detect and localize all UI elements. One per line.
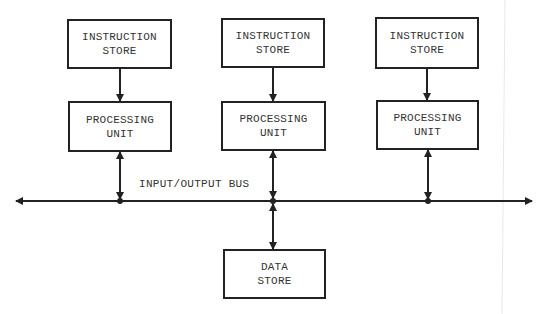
box-label-line2: STORE	[410, 43, 444, 57]
instruction-store-1: INSTRUCTION STORE	[67, 19, 172, 69]
box-label-line1: PROCESSING	[393, 111, 461, 125]
box-label-line2: STORE	[256, 43, 290, 57]
io-bus-label: INPUT/OUTPUT BUS	[139, 178, 249, 190]
processing-unit-1: PROCESSING UNIT	[68, 101, 172, 152]
box-label-line1: DATA	[261, 260, 288, 274]
box-label-line1: PROCESSING	[86, 113, 154, 127]
box-label-line2: UNIT	[260, 126, 287, 140]
instruction-store-2: INSTRUCTION STORE	[221, 18, 325, 68]
box-label-line1: INSTRUCTION	[390, 29, 465, 43]
box-label-line2: STORE	[257, 274, 291, 288]
diagram-canvas: INSTRUCTION STORE INSTRUCTION STORE INST…	[0, 0, 544, 314]
box-label-line1: INSTRUCTION	[82, 30, 157, 44]
processing-unit-3: PROCESSING UNIT	[376, 100, 479, 150]
processing-unit-2: PROCESSING UNIT	[221, 101, 326, 151]
box-label-line2: UNIT	[106, 127, 133, 141]
data-store: DATA STORE	[223, 249, 326, 299]
instruction-store-3: INSTRUCTION STORE	[375, 17, 479, 69]
box-label-line2: STORE	[102, 44, 136, 58]
junction-dot	[270, 198, 276, 204]
junction-dot	[425, 198, 431, 204]
junction-dot	[117, 198, 123, 204]
box-label-line1: INSTRUCTION	[236, 29, 311, 43]
box-label-line1: PROCESSING	[239, 112, 307, 126]
page-edge-line	[502, 0, 505, 314]
box-label-line2: UNIT	[414, 125, 441, 139]
